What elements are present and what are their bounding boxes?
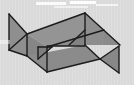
shape-thumbnail[interactable] [0, 0, 134, 85]
polyhedron-figure [0, 0, 134, 85]
face-left-side-panel [9, 14, 27, 56]
face-right-fin-lower [100, 46, 119, 73]
figure-faces [9, 13, 120, 73]
